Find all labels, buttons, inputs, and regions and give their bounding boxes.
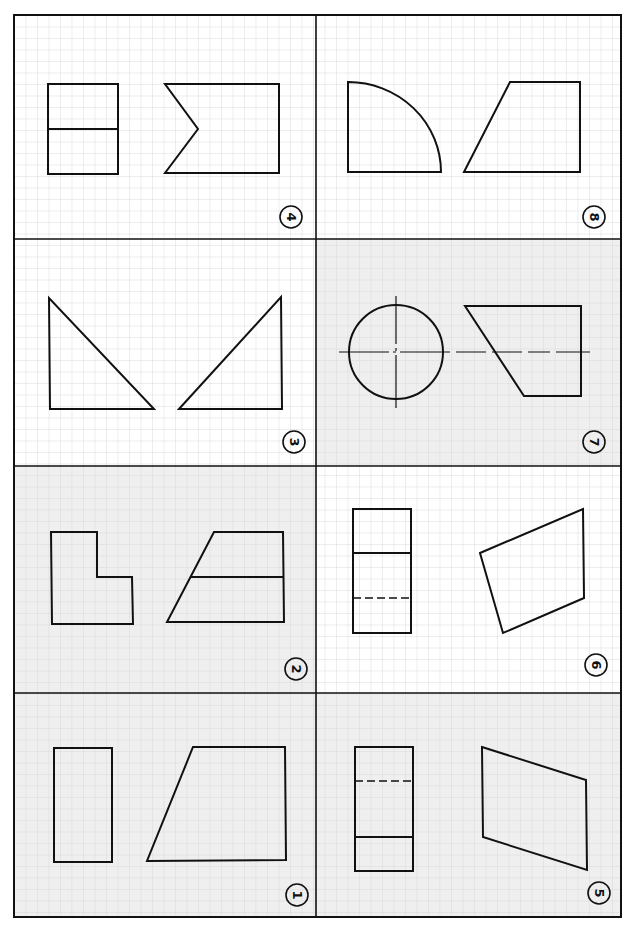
cell-3-number: 3 [287,437,302,446]
cell-4-number: 4 [284,212,299,221]
cell-1-number: 1 [290,890,305,899]
cell-8-number: 8 [587,212,602,221]
cell-7-number: 7 [587,437,602,446]
exercise-sheet: 4 8 3 7 2 6 1 5 [0,0,636,925]
cell-6-number: 6 [589,660,604,669]
cell-2-number: 2 [289,664,304,673]
cell-5-number: 5 [592,888,607,897]
